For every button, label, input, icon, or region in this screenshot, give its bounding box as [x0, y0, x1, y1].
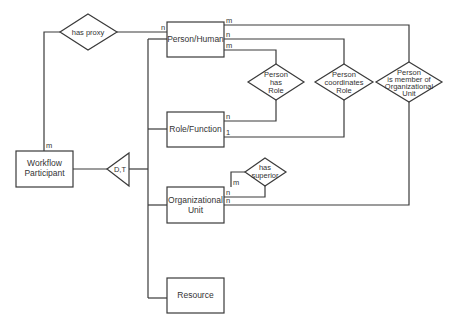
- entity-label-line2: Unit: [188, 205, 204, 215]
- relationship-person-has-role[interactable]: Person has Role: [248, 64, 304, 100]
- card-proxy-participant: m: [46, 141, 52, 150]
- entity-workflow-participant[interactable]: Workflow Participant: [16, 151, 73, 187]
- relationship-label-line3: Role: [268, 86, 283, 95]
- card-person-member: m: [226, 16, 232, 25]
- relationship-label-line3: Role: [336, 86, 351, 95]
- line-hasrole-role: [224, 100, 276, 121]
- entity-role-function[interactable]: Role/Function: [167, 112, 224, 147]
- relationship-label-line4: Unit: [402, 89, 416, 98]
- specialization-label: D,T: [114, 165, 127, 174]
- line-person-member: [224, 25, 409, 62]
- card-proxy-person: n: [161, 23, 165, 32]
- card-person-coordinates: n: [226, 30, 230, 39]
- relationship-label-line2: superior: [251, 171, 279, 180]
- card-org-member: n: [226, 196, 230, 205]
- card-role-coordinates: 1: [226, 128, 230, 137]
- line-person-coordinates: [224, 39, 344, 64]
- line-coordinates-role: [224, 100, 344, 137]
- relationship-has-proxy[interactable]: has proxy: [60, 14, 117, 50]
- line-person-hasrole: [224, 50, 276, 64]
- entity-resource[interactable]: Resource: [167, 278, 224, 313]
- connectors: [44, 25, 409, 298]
- entity-label: Role/Function: [169, 124, 222, 134]
- relationship-label: has proxy: [72, 28, 105, 37]
- er-diagram: Person/Human Role/Function Workflow Part…: [0, 0, 456, 323]
- card-role-hasrole: n: [226, 112, 230, 121]
- entity-label: Person/Human: [167, 34, 224, 44]
- specialization-dt[interactable]: D,T: [107, 153, 129, 186]
- entity-person-human[interactable]: Person/Human: [167, 22, 224, 57]
- entity-organizational-unit[interactable]: Organizational Unit: [167, 187, 224, 223]
- entity-label-line1: Organizational: [168, 195, 223, 205]
- card-org-superior-m: m: [233, 178, 239, 187]
- relationship-person-member-of-org[interactable]: Person is member of Organizational Unit: [376, 62, 442, 102]
- relationship-has-superior[interactable]: has superior: [245, 158, 286, 186]
- relationship-person-coordinates-role[interactable]: Person coordinates Role: [315, 64, 373, 100]
- entity-label-line2: Participant: [24, 168, 65, 178]
- entity-label: Resource: [177, 290, 214, 300]
- card-person-hasrole: m: [226, 41, 232, 50]
- line-member-org: [224, 102, 409, 205]
- line-proxy-participant: [44, 32, 60, 151]
- entity-label-line1: Workflow: [27, 158, 63, 168]
